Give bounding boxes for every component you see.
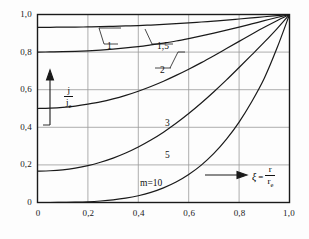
x-axis-title: ξ = r re — [252, 165, 275, 188]
y-tick-label-0-8: 0,8 — [8, 47, 32, 57]
x-tick-label-0-8: 0,8 — [234, 208, 246, 218]
y-tick-label-0-4: 0,4 — [8, 122, 32, 132]
y-axis-arrow — [43, 70, 54, 125]
y-axis-denominator: je — [64, 98, 73, 109]
x-tick-label-0-4: 0,4 — [133, 208, 145, 218]
equals-symbol: = — [258, 172, 263, 182]
x-axis-numerator: r — [267, 165, 274, 174]
x-tick-label-1-0: 1,0 — [283, 208, 295, 218]
x-axis-denominator: re — [265, 177, 275, 188]
curve-label-m-10: m=10 — [140, 178, 162, 188]
x-axis-arrow — [205, 172, 247, 179]
leader-line-1 — [99, 28, 104, 44]
curve-label-1: 1 — [107, 41, 112, 51]
y-tick-label-0-2: 0,2 — [8, 159, 32, 169]
y-tick-label-1-0: 1,0 — [8, 9, 32, 19]
curve-label-2: 2 — [160, 65, 165, 75]
curve-label-1-5: 1,5 — [157, 41, 169, 51]
leader-line-2 — [170, 52, 178, 68]
y-tick-label-0-6: 0,6 — [8, 84, 32, 94]
y-axis-numerator: j — [65, 86, 72, 95]
curve-label-3: 3 — [165, 118, 170, 128]
curve-label-5: 5 — [165, 150, 170, 160]
x-tick-label-0-2: 0,2 — [82, 208, 94, 218]
y-axis-fraction: j je — [64, 86, 73, 109]
curve-m-1-5 — [38, 15, 290, 28]
xi-symbol: ξ — [252, 171, 256, 182]
leader-line-15 — [145, 29, 152, 44]
x-tick-label-0: 0 — [36, 208, 41, 218]
chart-figure: 1,0 0,8 0,6 0,4 0,2 0 0 0,2 0,4 0,6 0,8 … — [0, 0, 309, 239]
chart-svg — [0, 0, 309, 239]
x-axis-fraction: r re — [265, 165, 275, 188]
y-axis-title: j je — [60, 86, 77, 109]
x-tick-label-0-6: 0,6 — [183, 208, 195, 218]
y-tick-label-0: 0 — [8, 197, 32, 207]
